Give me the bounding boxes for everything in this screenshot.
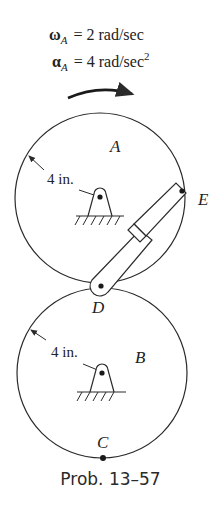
problem-caption: Prob. 13–57 bbox=[0, 469, 221, 489]
radius-leader-a bbox=[29, 156, 44, 170]
pin-support-a bbox=[75, 188, 124, 225]
point-d-label: D bbox=[91, 298, 105, 317]
radius-leader-b bbox=[31, 330, 46, 340]
gear-a-label: A bbox=[109, 137, 121, 156]
gear-b-label: B bbox=[135, 348, 146, 367]
point-e-label: E bbox=[197, 190, 209, 209]
point-c bbox=[100, 455, 106, 461]
radius-label-a: 4 in. bbox=[47, 171, 74, 187]
radius-label-b: 4 in. bbox=[51, 344, 78, 360]
pin-d bbox=[98, 283, 103, 288]
rotation-arrow-icon bbox=[68, 90, 132, 98]
point-c-label: C bbox=[97, 433, 109, 452]
pin-e bbox=[179, 188, 184, 193]
diagram: ωA= 2 rad/sec αA= 4 rad/sec2 A 4 in. B 4… bbox=[0, 0, 221, 506]
omega-line: ωA= 2 rad/sec bbox=[49, 26, 144, 46]
alpha-line: αA= 4 rad/sec2 bbox=[52, 50, 150, 73]
pin-support-b bbox=[77, 364, 126, 401]
